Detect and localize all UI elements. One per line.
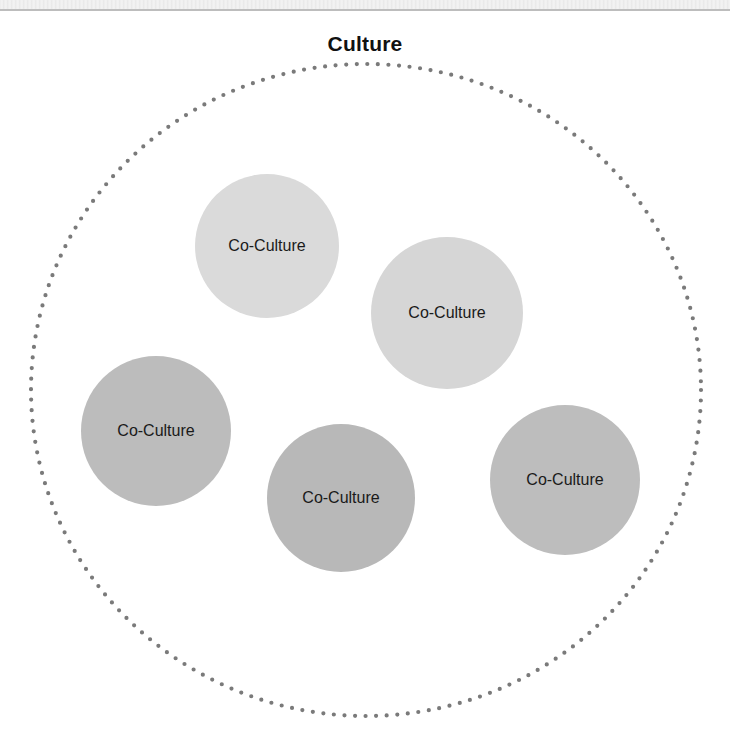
co-culture-label-3: Co-Culture [117, 422, 194, 440]
diagram-title: Culture [0, 32, 730, 56]
co-culture-label-1: Co-Culture [228, 237, 305, 255]
co-culture-label-4: Co-Culture [302, 489, 379, 507]
co-culture-label-2: Co-Culture [408, 304, 485, 322]
diagram-canvas [0, 0, 730, 752]
co-culture-label-5: Co-Culture [526, 471, 603, 489]
co-culture-circles [81, 174, 640, 572]
culture-diagram: Culture Co-Culture Co-Culture Co-Culture… [0, 0, 730, 752]
